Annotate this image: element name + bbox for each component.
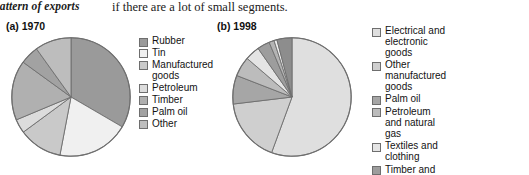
legend-entry-1998-item[interactable]: Petroleum and natural gas (372, 107, 446, 139)
legend-swatch-icon (139, 120, 148, 129)
chart-title-1998: (b) 1998 (217, 20, 257, 32)
pie-chart-1998 (230, 35, 354, 159)
legend-swatch-icon (139, 108, 148, 117)
legend-entry-1970-item[interactable]: Other (139, 119, 213, 130)
legend-entry-1998-item[interactable]: Palm oil (372, 94, 446, 105)
legend-swatch-icon (139, 84, 148, 93)
legend-label: Textiles and clothing (385, 141, 446, 163)
legend-label: Other (152, 119, 177, 130)
legend-swatch-icon (372, 96, 381, 105)
pie-svg-1970 (9, 35, 133, 159)
legend-label: Rubber (152, 36, 185, 47)
legend-swatch-icon (139, 38, 148, 47)
legend-swatch-icon (372, 28, 381, 37)
legend-entry-1970-item[interactable]: Palm oil (139, 107, 213, 118)
legend-swatch-icon (139, 49, 148, 58)
legend-label: Manufactured goods (152, 60, 213, 82)
legend-entry-1998-item[interactable]: Electrical and electronic goods (372, 26, 446, 58)
legend-swatch-icon (139, 96, 148, 105)
legend-entry-1998-item[interactable]: Textiles and clothing (372, 141, 446, 163)
legend-swatch-icon (372, 62, 381, 71)
legend-label: Palm oil (152, 107, 188, 118)
chart-title-1970: (a) 1970 (6, 20, 45, 32)
running-text-right: if there are a lot of small segments. (112, 0, 288, 15)
legend-entry-1970-item[interactable]: Timber (139, 95, 213, 106)
legend-entry-1970-item[interactable]: Tin (139, 48, 213, 59)
legend-swatch-icon (372, 108, 381, 117)
running-text-left: pattern of exports (0, 0, 80, 12)
legend-label: Palm oil (385, 94, 421, 105)
pie-svg-1998 (230, 35, 354, 159)
legend-swatch-icon (372, 166, 381, 175)
legend-entry-1998-item[interactable]: Other manufactured goods (372, 60, 446, 92)
legend-label: Petroleum and natural gas (385, 107, 446, 139)
legend-label: Timber (152, 95, 183, 106)
legend-swatch-icon (372, 143, 381, 152)
legend-label: Electrical and electronic goods (385, 26, 446, 58)
chart-legend-1998: Electrical and electronic goodsOther man… (372, 26, 446, 175)
legend-swatch-icon (139, 61, 148, 70)
pie-chart-1970 (9, 35, 133, 159)
legend-entry-1970-item[interactable]: Petroleum (139, 83, 213, 94)
legend-entry-1970-item[interactable]: Manufactured goods (139, 60, 213, 82)
legend-entry-1970-item[interactable]: Rubber (139, 36, 213, 47)
legend-label: Petroleum (152, 83, 198, 94)
chart-legend-1970: RubberTinManufactured goodsPetroleumTimb… (139, 36, 213, 130)
legend-label: Other manufactured goods (385, 60, 446, 92)
legend-label: Timber and wood products (385, 165, 446, 175)
legend-label: Tin (152, 48, 166, 59)
legend-entry-1998-item[interactable]: Timber and wood products (372, 165, 446, 175)
